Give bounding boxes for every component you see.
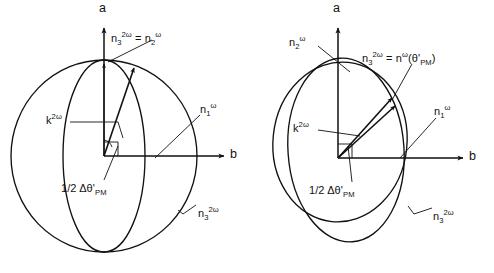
axis-label-a-right: a	[333, 2, 340, 15]
n3-superscript-2w: 2ω	[209, 205, 219, 214]
n1-subscript: 1	[206, 109, 210, 118]
n3-superscript-2w-r: 2ω	[444, 208, 454, 217]
n2-subscript: 2	[295, 42, 299, 51]
delta-theta-prime: Δθ'	[79, 182, 95, 194]
n1-subscript-r: 1	[440, 111, 444, 120]
label-n2-right: n2ω	[289, 37, 306, 49]
leader-n3-right	[408, 206, 432, 214]
n3-subscript-r: 3	[439, 216, 443, 225]
k-superscript-2w: 2ω	[52, 112, 62, 121]
half-fraction: 1/2	[61, 182, 77, 194]
leader-n2-right	[318, 46, 350, 72]
leader-n1-left	[155, 115, 200, 158]
k-vector-right	[338, 106, 395, 158]
leader-angle-right	[348, 146, 352, 182]
label-angle-right: 1/2 Δθ'PM	[309, 185, 355, 197]
label-top-relation-right: n32ω = nω(θ'PM)	[362, 53, 436, 65]
n-subscript-3: 3	[117, 38, 121, 47]
figure-root: a b n32ω = n2ω k2ω 1/2 Δθ'PM n1ω n32ω a …	[0, 0, 494, 273]
n3-subscript: 3	[204, 213, 208, 222]
equals-sign: =	[135, 32, 142, 44]
n-superscript-2w-r: 2ω	[373, 50, 383, 59]
leader-k-right	[318, 130, 360, 136]
k-tick-slant-left	[118, 122, 123, 138]
close-paren: )	[432, 52, 436, 64]
n-superscript-2w: 2ω	[122, 30, 132, 39]
theta-subscript-pm: PM	[420, 58, 432, 67]
leader-n1-right	[400, 118, 436, 158]
label-k-vector-left: k2ω	[46, 115, 62, 127]
equals-sign-r: =	[386, 52, 393, 64]
axis-label-a-left: a	[99, 2, 106, 15]
n1-superscript-w: ω	[211, 101, 217, 110]
delta-theta-prime-r: Δθ'	[327, 184, 343, 196]
axis-label-b-left: b	[230, 148, 237, 161]
subscript-pm: PM	[95, 188, 107, 197]
diagram-canvas	[0, 0, 494, 273]
label-n3-right: n32ω	[433, 211, 454, 223]
n-superscript-w: ω	[155, 30, 161, 39]
theta-open-paren: (θ'	[408, 52, 420, 64]
label-n3-left: n32ω	[198, 208, 219, 220]
axis-label-b-right: b	[469, 150, 476, 163]
n1-superscript-w-r: ω	[445, 103, 451, 112]
half-fraction-r: 1/2	[309, 184, 325, 196]
left-panel-graphics	[11, 28, 224, 252]
leader-top-relation-right	[392, 64, 412, 100]
label-k-vector-right: k2ω	[293, 123, 309, 135]
label-n1-right: n1ω	[434, 106, 451, 118]
label-angle-left: 1/2 Δθ'PM	[61, 183, 107, 195]
index-vector-right	[338, 98, 392, 158]
index-vector-left	[104, 68, 134, 156]
k-superscript-2w-r: 2ω	[299, 120, 309, 129]
label-top-relation-left: n32ω = n2ω	[111, 33, 161, 45]
n2-superscript-w: ω	[300, 34, 306, 43]
subscript-pm-r: PM	[343, 190, 355, 199]
n-subscript-3-r: 3	[368, 58, 372, 67]
n-subscript-2: 2	[151, 38, 155, 47]
label-n1-left: n1ω	[200, 104, 217, 116]
